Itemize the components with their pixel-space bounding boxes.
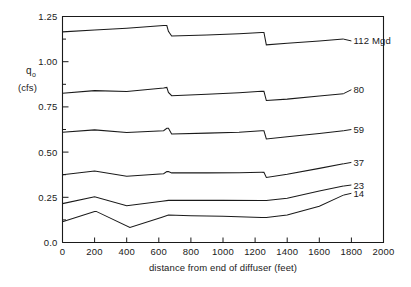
series-label: 80 [353, 84, 364, 95]
y-tick-label: 0.0 [44, 237, 58, 248]
x-tick-label: 0 [60, 246, 65, 257]
series-label-leader [343, 162, 351, 163]
plot-border [63, 17, 384, 243]
y-tick-label: 1.00 [38, 56, 57, 67]
series-label: 59 [353, 124, 364, 135]
series-label-leader [343, 185, 351, 186]
series-label-leader [343, 39, 351, 41]
x-tick-label: 800 [183, 246, 199, 257]
series-label: 37 [353, 157, 364, 168]
y-tick-label: 1.25 [38, 11, 57, 22]
series-label-leader [343, 130, 351, 131]
x-tick-label: 1200 [244, 246, 266, 257]
y-axis-ticks: 0.00.250.500.751.001.25 [38, 11, 68, 248]
x-tick-label: 2000 [373, 246, 395, 257]
y-axis-units: (cfs) [18, 82, 37, 93]
x-tick-label: 400 [118, 246, 134, 257]
y-tick-label: 0.25 [38, 192, 57, 203]
data-series-line [63, 26, 344, 45]
series-label: 112 Mgd [353, 35, 391, 46]
x-tick-label: 1400 [276, 246, 298, 257]
data-series-line [63, 87, 344, 100]
series-label-leader [343, 90, 351, 94]
series-label-leader [343, 193, 351, 195]
x-tick-label: 1800 [340, 246, 362, 257]
x-tick-label: 200 [86, 246, 102, 257]
y-tick-label: 0.50 [38, 147, 57, 158]
y-axis-title-subscript: o [32, 71, 36, 78]
line-chart-svg: 0200400600800100012001400160018002000 0.… [0, 0, 411, 287]
y-tick-label: 0.75 [38, 101, 57, 112]
data-series-line [63, 186, 344, 206]
x-axis-ticks: 0200400600800100012001400160018002000 [60, 238, 395, 257]
data-series-line [63, 164, 344, 178]
y-axis-title-symbol: q [26, 65, 32, 76]
x-axis-title: distance from end of diffuser (feet) [149, 262, 297, 273]
x-tick-label: 1000 [212, 246, 234, 257]
data-series-group [63, 26, 352, 228]
plot-frame [63, 17, 384, 243]
series-label: 14 [353, 188, 364, 199]
data-series-line [63, 128, 344, 139]
x-tick-label: 600 [151, 246, 167, 257]
series-labels-group: 112 Mgd8059372314 [353, 35, 391, 198]
x-tick-label: 1600 [308, 246, 330, 257]
chart-figure: 0200400600800100012001400160018002000 0.… [0, 0, 411, 287]
